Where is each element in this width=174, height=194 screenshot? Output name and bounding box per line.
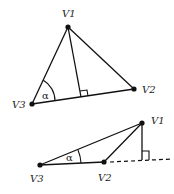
vertex-label-v1: V1 <box>151 115 165 126</box>
vertex-label-v2: V2 <box>142 84 156 95</box>
vertex-dot-v2 <box>131 86 136 91</box>
triangle-diagram: V1 V2 V3 α V1 V2 V3 α <box>0 0 174 194</box>
edge-v2-v1 <box>104 123 142 162</box>
vertex-label-v3: V3 <box>30 173 44 184</box>
vertex-dot-v2 <box>101 159 106 164</box>
angle-label-alpha: α <box>66 152 73 163</box>
vertex-dot-v3 <box>37 162 42 167</box>
vertex-label-v2: V2 <box>98 172 112 183</box>
extended-base-dashed <box>110 159 172 162</box>
edge-v1-v3 <box>32 27 68 104</box>
vertex-dot-v1 <box>139 120 144 125</box>
figure-bottom-triangle: V1 V2 V3 α <box>30 115 172 184</box>
right-angle-marker <box>142 151 149 160</box>
vertex-label-v1: V1 <box>62 8 76 19</box>
figure-top-triangle: V1 V2 V3 α <box>12 8 156 110</box>
edge-v3-v1 <box>40 123 142 165</box>
angle-label-alpha: α <box>42 90 49 101</box>
vertex-dot-v3 <box>29 101 34 106</box>
angle-arc <box>78 150 81 163</box>
vertex-label-v3: V3 <box>12 99 26 110</box>
vertex-dot-v1 <box>65 24 70 29</box>
